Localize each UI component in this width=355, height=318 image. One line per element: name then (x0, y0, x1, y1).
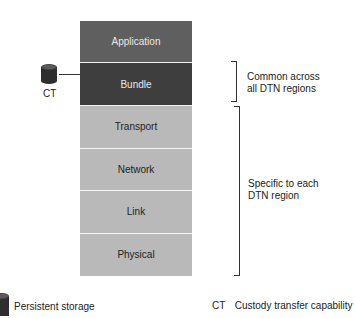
layer-label: Physical (117, 249, 154, 260)
bracket-specific-text: Specific to each DTN region (248, 178, 319, 202)
layer-physical: Physical (80, 234, 192, 277)
bracket-common-line1: Common across (247, 71, 320, 83)
legend-ct-abbrev: CT (212, 300, 225, 311)
layer-bundle: Bundle (80, 63, 192, 106)
cylinder-storage-icon (40, 63, 58, 85)
layer-label: Bundle (120, 79, 151, 90)
legend-storage-icon (0, 292, 10, 318)
layer-application: Application (80, 21, 192, 63)
storage-connector-line (59, 74, 80, 75)
bracket-common-line2: all DTN regions (247, 83, 320, 95)
layer-label: Transport (115, 121, 157, 132)
bracket-specific (234, 106, 240, 276)
ct-label: CT (43, 88, 56, 100)
layer-label: Network (118, 164, 155, 175)
bracket-common-text: Common across all DTN regions (247, 71, 320, 95)
layer-label: Application (112, 36, 161, 47)
layer-link: Link (80, 191, 192, 234)
bracket-common (231, 61, 237, 102)
bracket-specific-line1: Specific to each (248, 178, 319, 190)
legend-storage-label: Persistent storage (14, 301, 95, 313)
legend-ct-label: Custody transfer capability (235, 300, 353, 311)
layer-transport: Transport (80, 106, 192, 149)
layer-label: Link (127, 206, 145, 217)
protocol-stack: Application Bundle Transport Network Lin… (80, 21, 192, 276)
legend-ct: CT Custody transfer capability (212, 300, 353, 312)
layer-network: Network (80, 149, 192, 192)
bracket-specific-line2: DTN region (248, 190, 319, 202)
